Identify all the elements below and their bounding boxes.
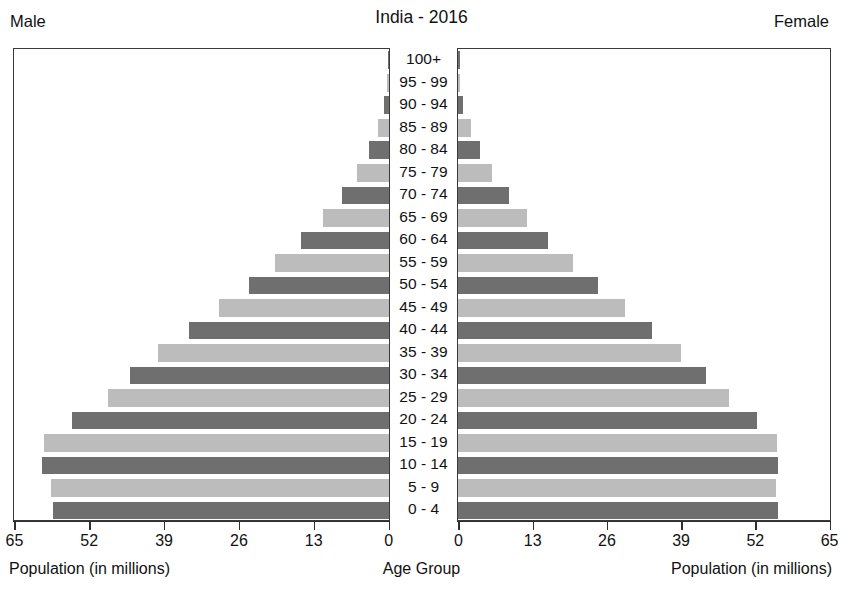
axis-tick-label: 0 xyxy=(454,531,463,550)
female-bar-row xyxy=(458,432,830,455)
female-bar xyxy=(458,412,757,430)
male-bar xyxy=(53,502,389,520)
male-bar-row xyxy=(14,117,389,140)
female-bar xyxy=(458,164,492,182)
female-bar xyxy=(458,502,778,520)
male-plot-panel xyxy=(13,48,390,521)
female-bar-row xyxy=(458,229,830,252)
age-group-label: 100+ xyxy=(390,48,457,71)
male-bar-row xyxy=(14,499,389,521)
male-bar-row xyxy=(14,342,389,365)
female-bar-row xyxy=(458,342,830,365)
female-bar xyxy=(458,51,460,69)
male-bar xyxy=(189,322,389,340)
female-bar xyxy=(458,389,729,407)
female-bar xyxy=(458,119,471,137)
axis-tick-label: 26 xyxy=(230,531,248,550)
axis-tick xyxy=(164,521,165,530)
age-group-label: 10 - 14 xyxy=(390,453,457,476)
male-bar xyxy=(342,187,389,205)
male-bar xyxy=(378,119,389,137)
male-bar-row xyxy=(14,207,389,230)
age-group-label: 50 - 54 xyxy=(390,273,457,296)
axis-tick-label: 65 xyxy=(5,531,23,550)
age-group-label: 0 - 4 xyxy=(390,498,457,521)
male-bar-row xyxy=(14,139,389,162)
female-bar-row xyxy=(458,499,830,521)
age-group-label: 45 - 49 xyxy=(390,296,457,319)
male-bar-row xyxy=(14,94,389,117)
female-bar xyxy=(458,367,706,385)
axis-tick xyxy=(830,521,831,530)
axis-tick-label: 13 xyxy=(524,531,542,550)
axis-tick-label: 0 xyxy=(384,531,393,550)
male-bar xyxy=(323,209,389,227)
male-bar xyxy=(42,457,389,475)
male-bar-row xyxy=(14,454,389,477)
female-bar-row xyxy=(458,387,830,410)
age-group-axis: 100+95 - 9990 - 9485 - 8980 - 8475 - 797… xyxy=(390,48,457,521)
axis-tick-label: 65 xyxy=(821,531,839,550)
male-bar xyxy=(388,51,390,69)
axis-tick xyxy=(458,521,459,530)
axis-tick xyxy=(607,521,608,530)
female-bar xyxy=(458,322,652,340)
female-bar xyxy=(458,299,625,317)
male-bar-row xyxy=(14,274,389,297)
female-bar xyxy=(458,277,598,295)
female-bar xyxy=(458,232,548,250)
age-group-label: 65 - 69 xyxy=(390,206,457,229)
male-bar-row xyxy=(14,162,389,185)
right-axis-caption: Population (in millions) xyxy=(671,559,832,578)
age-group-label: 95 - 99 xyxy=(390,71,457,94)
male-bar xyxy=(249,277,389,295)
male-bar xyxy=(72,412,389,430)
female-bar-row xyxy=(458,94,830,117)
male-bar-row xyxy=(14,252,389,275)
age-group-label: 75 - 79 xyxy=(390,161,457,184)
male-bar xyxy=(387,74,389,92)
female-bar xyxy=(458,141,480,159)
female-bar-row xyxy=(458,319,830,342)
age-group-label: 90 - 94 xyxy=(390,93,457,116)
age-group-label: 15 - 19 xyxy=(390,431,457,454)
male-bar-row xyxy=(14,319,389,342)
male-bar-row xyxy=(14,432,389,455)
male-bar xyxy=(357,164,389,182)
male-bar xyxy=(301,232,389,250)
female-bar xyxy=(458,96,463,114)
axis-tick-label: 39 xyxy=(672,531,690,550)
female-bar-row xyxy=(458,49,830,72)
age-group-label: 85 - 89 xyxy=(390,116,457,139)
female-bar-row xyxy=(458,184,830,207)
female-bar-row xyxy=(458,162,830,185)
axis-tick xyxy=(681,521,682,530)
male-bar-row xyxy=(14,477,389,500)
axis-tick-label: 26 xyxy=(598,531,616,550)
female-bar-row xyxy=(458,207,830,230)
age-group-label: 70 - 74 xyxy=(390,183,457,206)
female-bar xyxy=(458,254,573,272)
female-bar xyxy=(458,479,776,497)
age-group-label: 40 - 44 xyxy=(390,318,457,341)
axis-tick-label: 39 xyxy=(155,531,173,550)
age-group-label: 20 - 24 xyxy=(390,408,457,431)
female-bar xyxy=(458,344,681,362)
age-group-label: 60 - 64 xyxy=(390,228,457,251)
female-bar xyxy=(458,74,460,92)
female-bar xyxy=(458,209,527,227)
male-bar xyxy=(219,299,389,317)
female-bar-row xyxy=(458,117,830,140)
male-bar-row xyxy=(14,49,389,72)
age-group-label: 55 - 59 xyxy=(390,251,457,274)
female-bars-group xyxy=(458,49,830,520)
age-group-label: 5 - 9 xyxy=(390,476,457,499)
female-bar-row xyxy=(458,409,830,432)
axis-tick xyxy=(755,521,756,530)
axis-tick-label: 13 xyxy=(305,531,323,550)
female-bar-row xyxy=(458,297,830,320)
male-bar-row xyxy=(14,229,389,252)
axis-tick xyxy=(89,521,90,530)
female-x-axis xyxy=(457,521,831,533)
female-bar-row xyxy=(458,274,830,297)
